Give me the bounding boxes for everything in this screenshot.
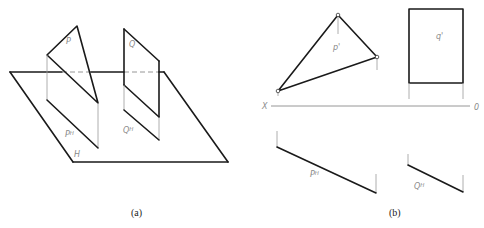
- vertex-point-top: [336, 13, 340, 17]
- vertex-point-right: [375, 55, 379, 59]
- q-prime-projection: q': [409, 9, 463, 99]
- label-trace-qh: QH: [123, 126, 133, 135]
- label-q-prime: q': [436, 32, 443, 41]
- label-qh: QH: [414, 182, 424, 191]
- label-plane-h: H: [74, 150, 80, 159]
- plane-h: [10, 72, 228, 162]
- plane-q-bottom-edge: [124, 85, 159, 117]
- label-ph: PH: [310, 170, 319, 179]
- panel-a: P Q PH QH H (a): [10, 26, 228, 219]
- label-p-prime: p': [332, 43, 340, 52]
- qh-trace-projection: QH: [408, 154, 463, 192]
- ph-trace-projection: PH: [277, 131, 376, 193]
- label-plane-q: Q: [129, 40, 135, 49]
- ph-trace-line: [277, 147, 376, 193]
- trace-qh-line: [124, 110, 159, 140]
- caption-b: (b): [389, 207, 401, 219]
- q-prime-rectangle: [409, 9, 463, 83]
- p-prime-projection: p': [276, 13, 379, 96]
- projection-figure: P Q PH QH H (a) X 0 p' q': [0, 0, 484, 228]
- plane-h-left-edge: [10, 72, 73, 162]
- label-trace-ph: PH: [65, 130, 74, 139]
- panel-b: X 0 p' q' PH: [261, 9, 479, 219]
- trace-ph-line: [47, 100, 98, 148]
- label-axis-0: 0: [474, 103, 479, 112]
- vertex-point-left: [276, 89, 280, 93]
- plane-p-triangle: [47, 26, 98, 103]
- figure-canvas: P Q PH QH H (a) X 0 p' q': [0, 0, 484, 228]
- caption-a: (a): [131, 207, 142, 219]
- label-plane-p: P: [66, 37, 71, 46]
- p-prime-triangle: [278, 15, 377, 91]
- label-axis-x: X: [261, 102, 268, 111]
- plane-h-right-edge: [164, 72, 228, 162]
